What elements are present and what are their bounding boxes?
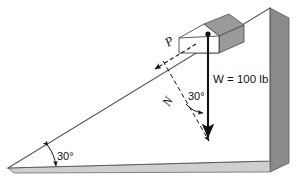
wedge-side-face <box>270 8 289 172</box>
label-force-p: P <box>161 33 176 50</box>
inclined-plane-figure: P N W = 100 lb 30° 30° <box>0 0 297 178</box>
label-angle-weight-normal: 30° <box>188 90 205 102</box>
figure-canvas: P N W = 100 lb 30° 30° <box>0 0 297 178</box>
label-weight: W = 100 lb <box>213 73 268 85</box>
label-angle-incline: 30° <box>57 150 74 162</box>
